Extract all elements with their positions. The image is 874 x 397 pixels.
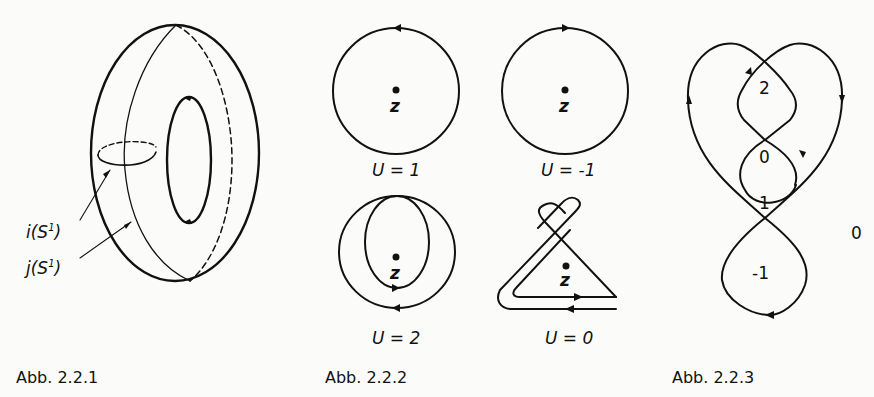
region-label-0-outer: 0 — [851, 223, 862, 243]
point-z-label: z — [390, 96, 400, 116]
winding-label-u1: U = 1 — [372, 160, 420, 180]
region-label-0-inner: 0 — [759, 147, 770, 167]
label-j-s1: j(S1) — [26, 258, 61, 278]
caption-abb-2-2-2: Abb. 2.2.2 — [325, 368, 407, 387]
point-z-label: z — [390, 263, 400, 283]
winding-label-u-neg1: U = -1 — [541, 160, 595, 180]
winding-u0-diagram — [498, 198, 616, 313]
region-label-neg1: -1 — [752, 263, 769, 283]
winding-u-neg1-diagram — [502, 24, 628, 154]
point-z-label: z — [560, 270, 570, 290]
winding-label-u2: U = 2 — [372, 328, 420, 348]
caption-abb-2-2-1: Abb. 2.2.1 — [16, 368, 98, 387]
figure-canvas — [0, 0, 874, 397]
point-z-label: z — [559, 96, 569, 116]
label-i-s1: i(S1) — [26, 222, 61, 242]
torus-diagram — [80, 25, 259, 281]
winding-label-u0: U = 0 — [545, 328, 593, 348]
winding-u2-diagram — [339, 196, 455, 312]
region-label-2: 2 — [759, 78, 770, 98]
winding-u1-diagram — [333, 24, 459, 154]
caption-abb-2-2-3: Abb. 2.2.3 — [672, 368, 754, 387]
region-label-1: 1 — [759, 193, 770, 213]
